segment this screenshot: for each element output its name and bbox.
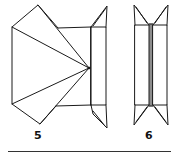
origami-diagram: 5 6 (0, 0, 171, 153)
figure-6-label: 6 (145, 130, 153, 141)
figure-6-drawing (134, 5, 168, 125)
figure-5-drawing (12, 5, 107, 128)
figure-5-label: 5 (34, 130, 42, 141)
divider-rule (8, 151, 171, 152)
